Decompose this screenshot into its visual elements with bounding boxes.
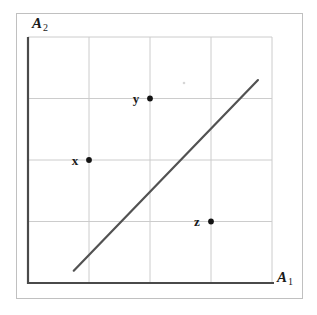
y-axis-subscript: 2 [43,22,48,33]
x-axis-letter: A [277,269,287,285]
x-axis-label: A1 [277,270,293,287]
y-axis-label: A2 [32,16,48,33]
artifact-speck [183,82,186,85]
data-point-label: y [133,91,140,106]
data-point-label: x [72,153,79,168]
data-point-dot [147,96,153,102]
y-axis-letter: A [32,15,42,31]
data-point-dot [208,219,214,225]
figure: xyz A2 A1 [0,0,317,315]
separator-line [74,80,258,271]
data-point-dot [86,157,92,163]
x-axis-subscript: 1 [288,276,293,287]
plot-canvas: xyz [0,0,317,315]
figure-frame-border [17,14,303,299]
data-point-label: z [194,214,200,229]
